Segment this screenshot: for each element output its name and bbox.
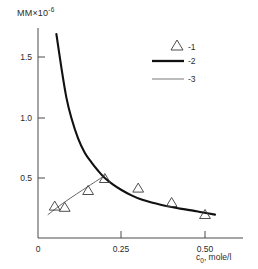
chart-figure: MM×10-6 c0, mole/l 1.5 1.0 0.5 0 0.25 0.…	[0, 0, 258, 269]
x-tick-label-0.25: 0.25	[113, 244, 130, 254]
data-point-marker	[166, 198, 177, 207]
x-tick-marks	[121, 231, 205, 238]
axes-group	[38, 28, 243, 238]
legend-label-3: -3	[188, 74, 196, 84]
y-tick-label-1.0: 1.0	[20, 113, 32, 123]
x-tick-label-0: 0	[36, 244, 41, 254]
legend-label-2: -2	[188, 56, 196, 66]
y-tick-label-1.5: 1.5	[20, 52, 32, 62]
x-tick-labels: 0 0.25 0.50	[36, 244, 214, 254]
data-point-marker	[49, 201, 60, 210]
legend: -1 -2 -3	[152, 40, 196, 84]
data-point-marker	[59, 202, 70, 211]
legend-label-1: -1	[188, 42, 196, 52]
y-tick-marks	[38, 57, 45, 178]
legend-triangle-icon	[171, 40, 183, 50]
data-point-marker	[133, 183, 144, 192]
y-tick-label-0.5: 0.5	[20, 173, 32, 183]
y-tick-labels: 1.5 1.0 0.5	[20, 52, 32, 183]
plot-area: 1.5 1.0 0.5 0 0.25 0.50 -1 -2 -3	[0, 0, 258, 269]
x-tick-label-0.50: 0.50	[197, 244, 214, 254]
series-3-line	[48, 176, 105, 215]
